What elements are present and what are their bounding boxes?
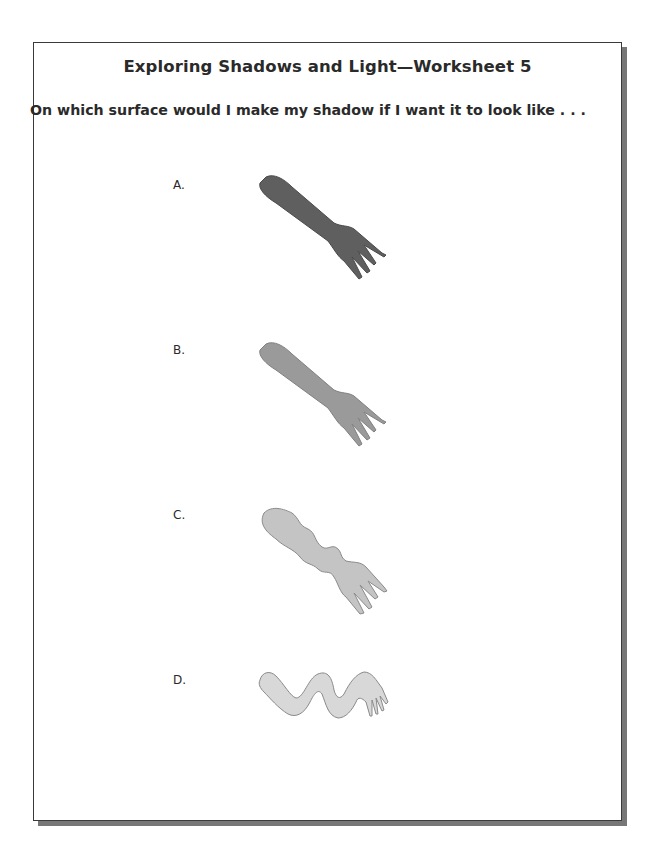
option-a-label: A. — [173, 178, 185, 192]
fork-shadow-icon-a — [256, 171, 396, 281]
option-b-label: B. — [173, 343, 185, 357]
worksheet-title: Exploring Shadows and Light—Worksheet 5 — [34, 57, 621, 76]
question-text: On which surface would I make my shadow … — [30, 102, 630, 118]
fork-shadow-icon-c — [256, 503, 396, 618]
fork-shadow-icon-d — [256, 668, 396, 728]
option-c-label: C. — [173, 508, 185, 522]
worksheet-frame: Exploring Shadows and Light—Worksheet 5 … — [33, 42, 622, 821]
option-d-label: D. — [173, 673, 186, 687]
fork-shadow-icon-b — [256, 338, 396, 448]
